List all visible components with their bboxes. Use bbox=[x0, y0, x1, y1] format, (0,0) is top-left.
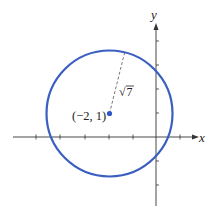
diagram-canvas: x y (−2, 1) √ 7 bbox=[0, 0, 212, 212]
radical-sign: √ bbox=[119, 85, 126, 99]
center-point bbox=[107, 111, 112, 116]
radius-label: √ 7 bbox=[119, 85, 134, 99]
y-axis-label: y bbox=[149, 7, 157, 22]
y-axis-arrow-icon bbox=[154, 23, 159, 30]
y-axis bbox=[154, 23, 160, 206]
x-axis-label: x bbox=[198, 130, 205, 145]
center-label: (−2, 1) bbox=[72, 109, 106, 123]
x-axis bbox=[13, 135, 199, 140]
x-axis-arrow-icon bbox=[192, 135, 199, 140]
radicand: 7 bbox=[127, 85, 133, 99]
radius-dashed-line bbox=[110, 51, 126, 114]
circle-diagram: x y (−2, 1) √ 7 bbox=[0, 0, 212, 212]
